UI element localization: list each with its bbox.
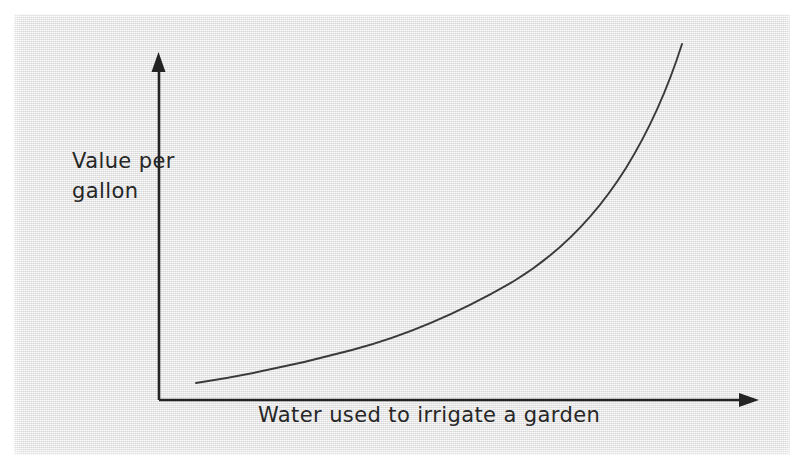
y-axis-arrowhead	[152, 52, 166, 72]
figure-root: Value per gallon Water used to irrigate …	[0, 0, 806, 472]
x-axis-arrowhead	[739, 393, 759, 407]
y-axis-label: Value per gallon	[72, 146, 192, 206]
value-per-gallon-curve	[196, 44, 682, 383]
x-axis-label: Water used to irrigate a garden	[258, 400, 600, 430]
